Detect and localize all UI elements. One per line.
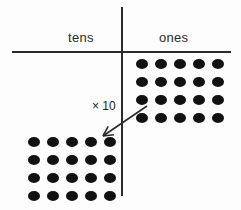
counter-dot xyxy=(28,155,40,165)
counter-dot xyxy=(47,191,59,201)
counter-dot xyxy=(47,173,59,183)
arrow-head-barb xyxy=(103,135,114,136)
counter-dot xyxy=(66,137,78,147)
tens-dot-group xyxy=(28,137,123,209)
counter-dot xyxy=(155,59,167,69)
counter-dot xyxy=(28,137,40,147)
column-heading-ones: ones xyxy=(159,30,188,45)
counter-dot xyxy=(104,155,116,165)
counter-dot xyxy=(155,77,167,87)
counter-dot xyxy=(193,113,205,123)
ones-dot-group xyxy=(136,59,231,131)
counter-dot xyxy=(104,191,116,201)
counter-dot xyxy=(28,173,40,183)
counter-dot xyxy=(174,77,186,87)
counter-dot xyxy=(212,59,224,69)
counter-dot xyxy=(174,59,186,69)
counter-dot xyxy=(85,137,97,147)
counter-dot xyxy=(47,155,59,165)
counter-dot xyxy=(85,191,97,201)
counter-dot xyxy=(104,137,116,147)
counter-dot xyxy=(66,155,78,165)
counter-dot xyxy=(85,155,97,165)
counter-dot xyxy=(174,95,186,105)
counter-dot xyxy=(174,113,186,123)
counter-dot xyxy=(47,137,59,147)
counter-dot xyxy=(104,173,116,183)
counter-dot xyxy=(136,77,148,87)
counter-dot xyxy=(212,95,224,105)
counter-dot xyxy=(212,113,224,123)
counter-dot xyxy=(66,191,78,201)
counter-dot xyxy=(136,113,148,123)
counter-dot xyxy=(155,113,167,123)
column-heading-tens: tens xyxy=(68,30,94,45)
counter-dot xyxy=(28,191,40,201)
counter-dot xyxy=(212,77,224,87)
counter-dot xyxy=(136,95,148,105)
counter-dot xyxy=(193,59,205,69)
place-value-chart-diagram: tens ones × 10 xyxy=(0,0,241,210)
times-ten-label: × 10 xyxy=(92,99,116,113)
counter-dot xyxy=(193,95,205,105)
counter-dot xyxy=(155,95,167,105)
counter-dot xyxy=(85,173,97,183)
counter-dot xyxy=(193,77,205,87)
arrow-head-barb xyxy=(103,126,108,136)
counter-dot xyxy=(136,59,148,69)
counter-dot xyxy=(66,173,78,183)
